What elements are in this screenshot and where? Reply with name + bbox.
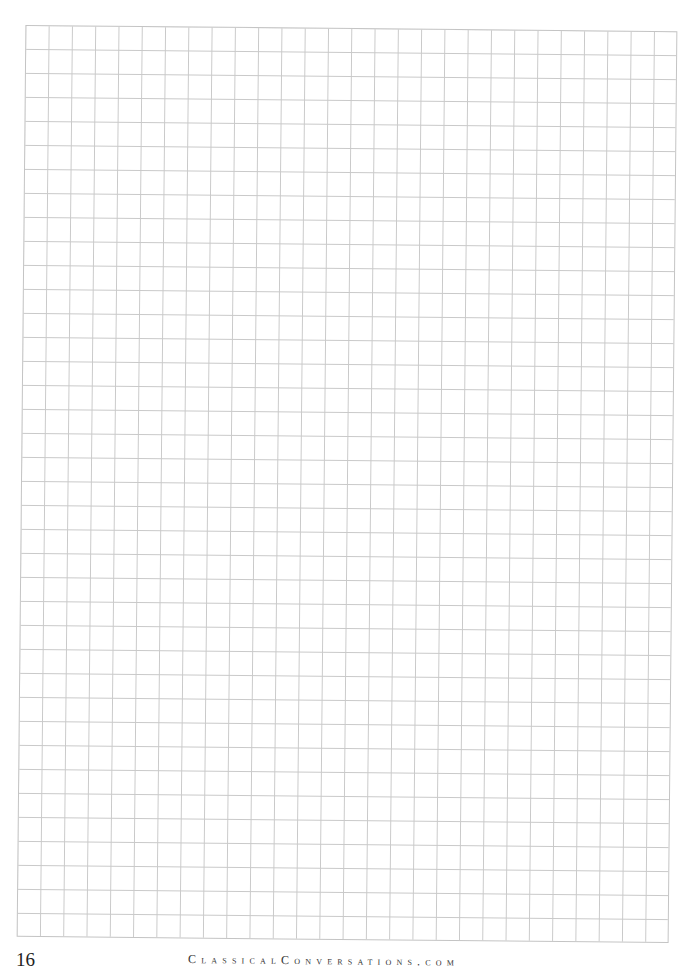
page-number: 16 [16,949,35,971]
graph-paper-grid [17,25,678,943]
footer-brand: ClassicalConversations.com [188,952,459,970]
